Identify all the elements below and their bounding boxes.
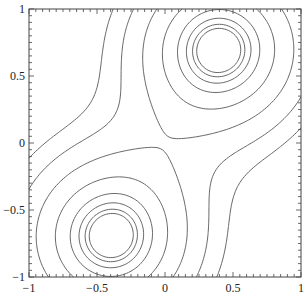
contour-lines [29,9,301,277]
y-tick-label: 0 [19,136,25,150]
y-tick-label: −1 [12,270,25,284]
contour-line [29,9,301,277]
plot-frame [29,9,301,277]
contour-line [85,24,245,261]
y-axis-tick-labels: −1−0.500.51 [3,2,25,284]
contour-line [89,28,240,257]
y-tick-label: −0.5 [3,203,25,217]
x-tick-label: −0.5 [86,281,108,295]
x-tick-label: 0.5 [226,281,241,295]
contour-line [79,18,251,268]
contour-line [70,10,260,277]
contour-line [29,9,301,277]
axis-ticks [29,9,301,277]
contour-line [36,9,294,277]
y-tick-label: 1 [19,2,25,16]
contour-line [55,9,274,277]
y-tick-label: 0.5 [10,69,25,83]
contour-plot: −1−0.500.51 −1−0.500.51 [0,0,307,298]
x-tick-label: 1 [298,281,304,295]
x-axis-tick-labels: −1−0.500.51 [23,281,304,295]
x-tick-label: 0 [162,281,168,295]
